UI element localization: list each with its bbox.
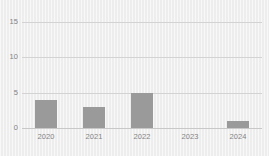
bar-chart: 15 10 5 0 2020 2021 2022 2023 2024	[0, 0, 269, 156]
x-axis-tick-label-2024: 2024	[214, 133, 262, 141]
bar-2024[interactable]	[227, 121, 249, 128]
y-axis-tick-label: 10	[2, 53, 18, 61]
x-axis-tick-label-2022: 2022	[118, 133, 166, 141]
axis-baseline	[22, 128, 262, 129]
bar-slot	[214, 22, 262, 128]
bars-layer	[22, 22, 262, 128]
x-axis-tick-label-2023: 2023	[166, 133, 214, 141]
x-axis-tick-label-2021: 2021	[70, 133, 118, 141]
bar-slot	[22, 22, 70, 128]
x-axis-tick-label-2020: 2020	[22, 133, 70, 141]
bar-slot	[118, 22, 166, 128]
y-axis-tick-label: 5	[2, 89, 18, 97]
y-axis-tick-label: 15	[2, 18, 18, 26]
bar-2021[interactable]	[83, 107, 105, 128]
bar-slot	[70, 22, 118, 128]
bar-slot	[166, 22, 214, 128]
bar-2020[interactable]	[35, 100, 57, 128]
bar-2022[interactable]	[131, 93, 153, 128]
y-axis-tick-label: 0	[2, 124, 18, 132]
